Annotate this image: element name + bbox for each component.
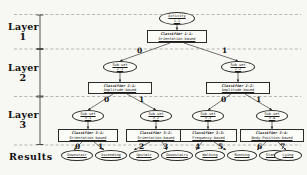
edge-label-l2-0: 0 — [104, 95, 109, 104]
layer-label-1-num: 1 — [8, 32, 38, 42]
result-node-4[interactable]: Walking — [195, 150, 225, 161]
node-classifier-3-1-line2: Orientation-based — [70, 136, 107, 140]
node-subset-3-2-line2: 3-2 — [153, 116, 160, 120]
node-classifier-2-2[interactable]: Classifier 2-2: Amplitude-based — [206, 82, 270, 94]
result-edge-label-1: 1 — [98, 142, 103, 151]
node-subset-2-1[interactable]: Sub-set 2-1 — [103, 61, 137, 73]
edge-label-l2-3: 1 — [256, 95, 261, 104]
result-node-5[interactable]: Running — [227, 150, 257, 161]
result-edge-label-5: 5 — [218, 142, 223, 151]
node-subset-2-1-line2: 2-1 — [117, 67, 124, 71]
node-classifier-3-4-line2: Body-Position-based — [251, 136, 292, 140]
node-subset-3-4-line2: 3-4 — [269, 116, 276, 120]
result-node-1[interactable]: Ascending — [95, 150, 127, 161]
layer-label-1: Layer 1 — [8, 22, 38, 41]
result-edge-label-4: 4 — [195, 142, 200, 151]
node-classifier-3-2[interactable]: Classifier 3-2: Orientation-based — [126, 129, 186, 142]
node-subset-3-3[interactable]: Sub-set 3-3 — [192, 110, 224, 122]
result-node-4-label: Walking — [202, 153, 217, 157]
result-node-1-label: Ascending — [101, 153, 120, 157]
layer-label-3: Layer 3 — [8, 110, 38, 129]
node-subset-3-4[interactable]: Sub-set 3-4 — [256, 110, 288, 122]
node-activity-root[interactable]: Activity 1-1 — [159, 12, 195, 25]
node-classifier-3-4[interactable]: Classifier 3-4: Body-Position-based — [240, 129, 304, 142]
edge-label-l1-1: 1 — [222, 46, 227, 55]
result-edge-label-6: 6 — [257, 142, 262, 151]
result-node-5-label: Running — [234, 153, 249, 157]
node-subset-3-2[interactable]: Sub-set 3-2 — [140, 110, 172, 122]
edge-label-l2-2: 0 — [221, 95, 226, 104]
result-node-7-label: Lying — [283, 153, 294, 157]
node-classifier-2-2-line2: Amplitude-based — [222, 88, 254, 92]
result-node-3[interactable]: Downstairs — [161, 150, 193, 161]
result-node-2-label: Upstair — [136, 153, 151, 157]
results-label: Results — [9, 151, 53, 162]
edge-label-l1-0: 0 — [137, 46, 142, 55]
node-subset-3-1-line2: 3-1 — [85, 116, 92, 120]
diagram-canvas: Layer 1 Layer 2 Layer 3 Results Activity… — [0, 0, 307, 175]
node-classifier-3-3-line2: Frequency-based — [192, 136, 224, 140]
result-edge-label-3: 3 — [163, 142, 168, 151]
edge-label-l2-1: 1 — [139, 95, 144, 104]
layer-label-3-num: 3 — [8, 120, 38, 130]
node-subset-2-2-line2: 2-2 — [235, 67, 242, 71]
result-node-2[interactable]: Upstair — [129, 150, 159, 161]
result-node-7[interactable]: Lying — [274, 150, 302, 161]
node-activity-root-line2: 1-1 — [174, 19, 181, 23]
result-node-3-label: Downstairs — [166, 153, 188, 157]
node-classifier-2-1-line2: Amplitude-based — [104, 88, 136, 92]
node-classifier-1-1[interactable]: Classifier 1-1: Orientation-based — [147, 30, 207, 43]
node-subset-3-3-line2: 3-3 — [205, 116, 212, 120]
node-subset-2-2[interactable]: Sub-set 2-2 — [221, 61, 255, 73]
node-classifier-3-1[interactable]: Classifier 3-1: Orientation-based — [58, 129, 118, 142]
result-node-0-label: Downstair — [67, 153, 86, 157]
result-node-0[interactable]: Downstair — [61, 150, 93, 161]
node-classifier-3-3[interactable]: Classifier 3-3: Frequency-based — [180, 129, 237, 142]
node-subset-3-1[interactable]: Sub-set 3-1 — [72, 110, 104, 122]
layer-label-2-num: 2 — [8, 73, 38, 83]
layer-label-2: Layer 2 — [8, 63, 38, 82]
node-classifier-3-2-line2: Orientation-based — [138, 136, 175, 140]
node-classifier-1-1-line2: Orientation-based — [159, 37, 196, 41]
node-classifier-2-1[interactable]: Classifier 2-1: Amplitude-based — [88, 82, 152, 94]
